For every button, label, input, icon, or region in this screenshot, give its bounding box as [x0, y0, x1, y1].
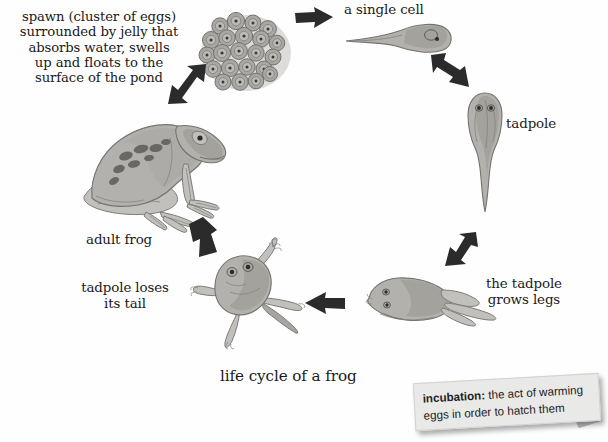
caption-adult-frog: adult frog — [86, 232, 152, 248]
tadpole-illustration — [461, 90, 509, 216]
arrow-adult-frog-to-spawn — [166, 62, 208, 106]
frog-spawn-cluster-illustration — [198, 12, 294, 94]
tadpole-with-legs-illustration — [360, 270, 500, 328]
arrow-single-cell-to-tadpole — [428, 52, 472, 90]
arrow-spawn-to-single-cell — [294, 6, 334, 30]
caption-tadpole-loses-its-tail: tadpole loses its tail — [55, 280, 195, 311]
arrow-loses-tail-to-adult-frog — [183, 216, 221, 258]
arrow-grows-legs-to-loses-tail — [303, 291, 346, 316]
page-title: life cycle of a frog — [220, 368, 357, 386]
caption-tadpole: tadpole — [506, 116, 556, 132]
caption-single-cell: a single cell — [344, 2, 424, 18]
note-term: incubation: — [422, 388, 485, 404]
arrow-tadpole-to-grows-legs — [437, 229, 479, 267]
diagram-canvas: spawn (cluster of eggs) surrounded by je… — [0, 0, 608, 442]
incubation-definition-note: incubation: the act of warming eggs in o… — [413, 373, 601, 431]
